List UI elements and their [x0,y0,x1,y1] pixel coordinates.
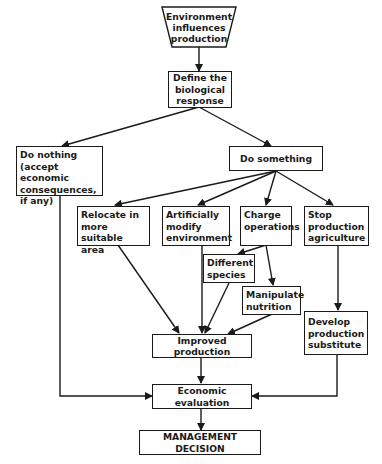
edge-define-dosomething [199,107,271,146]
node-relocate: Relocate in more suitable area [77,206,150,246]
node-charge: Charge operations [240,206,292,246]
node-manipulate: Manipulate nutrition [242,286,301,315]
node-define: Define the biological response [168,71,232,108]
edge-dosomething-charge [266,171,276,205]
node-do-something: Do something [229,146,323,171]
edge-charge-different [238,245,266,254]
node-stop: Stop production agriculture [304,206,369,246]
edge-charge-manipulate [266,245,273,285]
node-economic: Economic evaluation [152,384,252,409]
node-develop: Develop production substitute [304,311,368,355]
edge-develop-economic [252,355,337,396]
node-do-nothing: Do nothing (accept economic consequences… [16,146,103,196]
edge-dosomething-artificially [198,171,276,205]
edge-define-donothing [62,107,199,146]
edge-different-improved [205,283,229,333]
edge-dosomething-stop [276,171,333,205]
edge-dosomething-relocate [115,171,276,205]
node-environment: Environment influences production [166,8,232,46]
node-different: Different species [203,254,255,283]
edge-manipulate-improved [228,314,272,334]
node-management: MANAGEMENT DECISION [139,430,261,455]
node-improved: Improved production [152,334,252,358]
node-artificially: Artificially modify environment [162,206,230,246]
edge-relocate-improved [118,245,179,333]
